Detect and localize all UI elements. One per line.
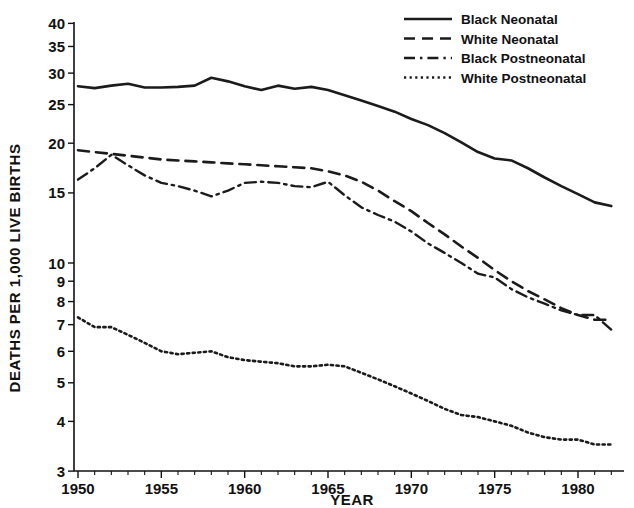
y-tick-label: 25	[48, 96, 65, 113]
x-tick-label: 1980	[561, 480, 594, 497]
y-tick-label: 3	[57, 463, 65, 480]
y-tick-label: 6	[57, 343, 65, 360]
x-tick-label: 1950	[61, 480, 94, 497]
legend-label: White Neonatal	[461, 32, 559, 47]
legend-label: Black Neonatal	[461, 12, 558, 27]
y-tick-label: 40	[48, 15, 65, 32]
y-tick-label: 5	[57, 374, 65, 391]
x-tick-label: 1955	[145, 480, 178, 497]
y-axis-title: DEATHS PER 1,000 LIVE BIRTHS	[6, 144, 23, 393]
x-tick-label: 1975	[478, 480, 511, 497]
y-tick-label: 4	[57, 413, 66, 430]
x-tick-label: 1970	[395, 480, 428, 497]
y-tick-label: 7	[57, 316, 65, 333]
y-tick-label: 9	[57, 273, 65, 290]
legend-label: Black Postneonatal	[461, 51, 586, 66]
infant-mortality-line-chart: 345678910152025303540 195019551960196519…	[0, 0, 634, 508]
y-tick-label: 35	[48, 38, 65, 55]
chart-figure: 345678910152025303540 195019551960196519…	[0, 0, 634, 508]
y-tick-label: 30	[48, 65, 65, 82]
y-tick-label: 8	[57, 293, 65, 310]
legend-label: White Postneonatal	[461, 71, 586, 86]
x-tick-label: 1960	[228, 480, 261, 497]
x-axis-title: YEAR	[330, 491, 374, 508]
y-tick-label: 20	[48, 135, 65, 152]
y-tick-label: 15	[48, 184, 65, 201]
y-tick-label: 10	[48, 255, 65, 272]
